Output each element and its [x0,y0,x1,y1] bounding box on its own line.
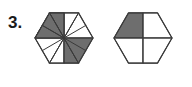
left-hexagon-spokes [35,13,93,63]
left-hexagon-group [35,13,93,63]
right-hexagon-dividers [114,13,172,63]
hexagon-figures-group [0,0,192,87]
worksheet-figure-canvas: 3. [0,0,192,87]
right-hexagon-group [114,13,172,63]
right-hexagon-quadrant-top-right [143,13,172,38]
right-hexagon-quadrant-top-left [114,13,143,38]
right-hexagon-quadrant-bottom-right [143,38,172,63]
right-hexagon-quadrant-bottom-left [114,38,143,63]
